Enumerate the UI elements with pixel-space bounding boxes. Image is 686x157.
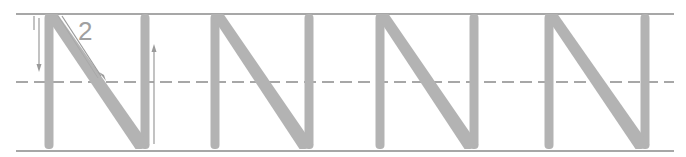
diagonal-stroke bbox=[376, 14, 479, 149]
letter-n-3 bbox=[376, 14, 479, 149]
left-stem bbox=[376, 14, 385, 149]
left-stem bbox=[211, 14, 220, 149]
stroke-2-number: 2 bbox=[78, 16, 92, 46]
practice-canvas: 2 bbox=[0, 0, 686, 157]
right-stem bbox=[470, 14, 479, 149]
right-stem bbox=[141, 14, 150, 149]
right-stem bbox=[305, 14, 314, 149]
stroke-3-arrow-icon bbox=[152, 44, 157, 144]
stroke-1-arrow-icon bbox=[34, 16, 42, 72]
left-stem bbox=[545, 14, 554, 149]
right-stem bbox=[641, 14, 650, 149]
left-stem bbox=[45, 14, 54, 149]
handwriting-practice-sheet: 2 bbox=[0, 0, 686, 157]
